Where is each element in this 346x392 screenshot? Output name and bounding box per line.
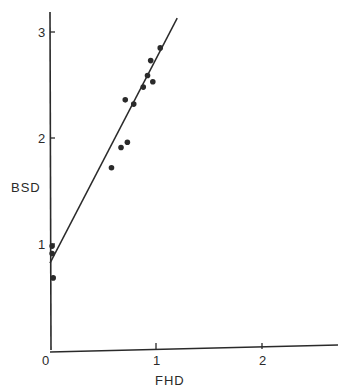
data-point — [122, 97, 128, 103]
data-point — [145, 73, 151, 79]
y-tick-label: 1 — [38, 237, 45, 252]
y-axis-title: BSD — [11, 180, 41, 195]
data-point — [150, 79, 156, 85]
data-point — [140, 84, 146, 90]
y-tick-label: 2 — [38, 131, 45, 146]
x-ticks: 012 — [42, 343, 266, 368]
x-tick-label: 2 — [259, 353, 266, 368]
data-point — [157, 45, 163, 51]
series-layer — [49, 18, 177, 281]
data-point — [131, 101, 137, 107]
x-axis — [50, 345, 338, 352]
data-point — [49, 251, 55, 257]
x-axis-title: FHD — [155, 373, 185, 388]
axes: 012 123 — [38, 12, 338, 368]
x-tick-label: 0 — [42, 353, 49, 368]
x-tick-label: 1 — [153, 353, 160, 368]
data-point — [109, 165, 115, 171]
y-axis — [50, 12, 51, 350]
data-point — [49, 243, 55, 249]
regression-line — [50, 18, 177, 263]
data-point — [50, 275, 56, 281]
y-tick-label: 3 — [38, 25, 45, 40]
data-point — [118, 145, 124, 151]
y-ticks: 123 — [38, 25, 55, 252]
data-point — [148, 58, 154, 64]
scatter-chart: 012 123 FHD BSD — [0, 0, 346, 392]
data-point — [125, 139, 131, 145]
